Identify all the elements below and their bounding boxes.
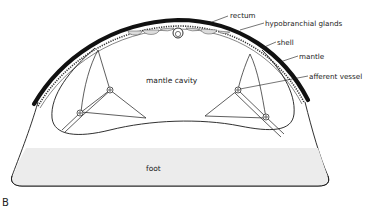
left-gill	[62, 50, 146, 132]
panel-label: B	[2, 197, 9, 208]
label-afferent-vessel: afferent vessel	[309, 72, 362, 81]
shell	[34, 20, 308, 104]
label-hypobranchial-glands: hypobranchial glands	[265, 19, 343, 28]
mantle	[38, 26, 304, 106]
mollusc-cross-section-diagram: rectum hypobranchial glands shell mantle…	[0, 0, 376, 208]
label-mantle-cavity: mantle cavity	[146, 76, 198, 85]
label-shell: shell	[277, 38, 294, 47]
label-mantle: mantle	[299, 52, 325, 61]
right-gill	[205, 54, 284, 137]
foot-region	[12, 148, 328, 186]
mantle-cavity-outline	[52, 48, 294, 134]
label-rectum: rectum	[230, 11, 256, 20]
label-foot: foot	[146, 164, 161, 173]
